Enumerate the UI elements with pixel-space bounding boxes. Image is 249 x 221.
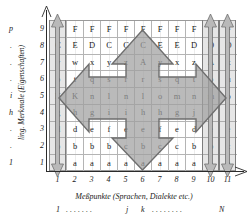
grid-cell: a [152, 155, 169, 172]
grid-cell: b [186, 138, 203, 155]
grid-cell: F [84, 21, 101, 38]
bottom-index-j: j [126, 206, 128, 214]
grid-cell: q [169, 71, 186, 88]
grid-cell: A [135, 55, 152, 72]
grid-cell: F [101, 21, 118, 38]
grid-cell: a [118, 155, 135, 172]
grid-cell: s [101, 71, 118, 88]
grid-cell: s [152, 71, 169, 88]
grid-cell: e [84, 122, 101, 139]
column-number-1: 1 [49, 176, 66, 184]
grid-cell: m [203, 88, 220, 105]
row-number-2: 2 [34, 142, 44, 150]
grid-cell: e [135, 122, 152, 139]
bottom-index-k: k [141, 206, 145, 214]
grid-cell: x [220, 55, 237, 72]
grid-cell: F [50, 21, 67, 38]
grid-cell: j [186, 105, 203, 122]
grid-cell: b [84, 138, 101, 155]
grid-cell: a [101, 155, 118, 172]
grid-cell: E [169, 38, 186, 55]
grid-cell: a [135, 155, 152, 172]
bottom-index-dots-left: . . . . . . . [66, 206, 92, 214]
grid-cell: n [186, 88, 203, 105]
grid-cell: b [50, 138, 67, 155]
grid-cell: d [186, 122, 203, 139]
grid-cell: g [169, 105, 186, 122]
grid-cell: F [220, 21, 237, 38]
grid-cell: b [101, 138, 118, 155]
grid-cell: o [220, 88, 237, 105]
x-axis-line [46, 171, 244, 172]
x-axis-caption: Meßpunkte (Sprachen, Dialekte etc.) [34, 192, 234, 201]
grid-cell: x [84, 55, 101, 72]
grid-cell: b [135, 138, 152, 155]
bottom-index-start: 1 [56, 206, 60, 214]
grid-cell: e [169, 122, 186, 139]
grid-cell: C [118, 38, 135, 55]
grid-cell: c [118, 138, 135, 155]
column-number-11: 11 [219, 176, 236, 184]
bottom-index-end: N [219, 206, 224, 214]
bottom-index-dots-right: . . . . . . . . [152, 206, 182, 214]
grid-cell: a [50, 155, 67, 172]
row-number-7: 7 [34, 59, 44, 67]
grid-cell: F [203, 21, 220, 38]
grid-cell: h [135, 105, 152, 122]
row-number-4: 4 [34, 109, 44, 117]
column-number-4: 4 [100, 176, 117, 184]
grid-cell: F [135, 21, 152, 38]
row-number-1: 1 [34, 159, 44, 167]
column-number-6: 6 [134, 176, 151, 184]
grid-cell: C [101, 38, 118, 55]
grid-cell: p [203, 71, 220, 88]
row-number-9: 9 [34, 25, 44, 33]
grid-cell: a [169, 155, 186, 172]
grid-cell: y [152, 55, 169, 72]
column-number-9: 9 [185, 176, 202, 184]
grid-cell: j [220, 105, 237, 122]
grid-cell: i [101, 105, 118, 122]
grid-cell: C [50, 38, 67, 55]
grid-cell: D [220, 38, 237, 55]
y-axis-line [46, 10, 47, 172]
grid-cell: z [186, 55, 203, 72]
grid-cell: F [186, 21, 203, 38]
grid-cell: e [220, 122, 237, 139]
grid-cell: t [186, 71, 203, 88]
grid-cell: c [220, 138, 237, 155]
grid-cell: z [118, 55, 135, 72]
grid-cell: a [67, 155, 84, 172]
row-number-5: 5 [34, 92, 44, 100]
grid-cell: C [135, 38, 152, 55]
row-number-6: 6 [34, 75, 44, 83]
grid-cell: t [67, 71, 84, 88]
row-number-8: 8 [34, 42, 44, 50]
grid-cell: j [203, 105, 220, 122]
grid-cell: b [67, 138, 84, 155]
grid-cell: a [186, 155, 203, 172]
y-axis-arrowhead-icon [41, 6, 52, 18]
grid-cell: x [169, 55, 186, 72]
grid-cell: d [67, 122, 84, 139]
grid-cell: F [169, 21, 186, 38]
grid-cell: K [50, 88, 67, 105]
grid-cell: r [118, 71, 135, 88]
grid-cell: D [84, 38, 101, 55]
grid-cell: h [67, 105, 84, 122]
grid-cell: g [50, 105, 67, 122]
column-number-8: 8 [168, 176, 185, 184]
grid-cell: K [67, 88, 84, 105]
grid-cell: c [152, 138, 169, 155]
column-number-5: 5 [117, 176, 134, 184]
grid-cell: h [152, 105, 169, 122]
grid-cell: q [84, 71, 101, 88]
grid-cell: D [203, 38, 220, 55]
grid-cell: n [84, 88, 101, 105]
grid-cell: E [67, 38, 84, 55]
grid-cell: l [135, 88, 152, 105]
grid-cell: p [50, 71, 67, 88]
x-axis-arrowhead-icon [234, 166, 247, 177]
row-number-3: 3 [34, 125, 44, 133]
grid-cell: b [203, 138, 220, 155]
